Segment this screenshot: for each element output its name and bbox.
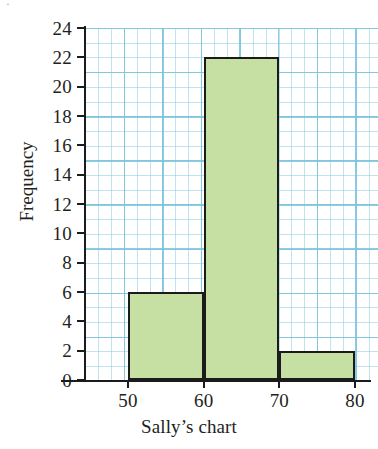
y-axis-tick xyxy=(77,350,85,352)
bar xyxy=(204,57,280,380)
y-axis-tick xyxy=(77,262,85,264)
y-axis-tick xyxy=(77,203,85,205)
y-axis-tick-label: 6 xyxy=(32,283,72,302)
y-axis-tick-label: 22 xyxy=(32,48,72,67)
y-axis-tick-label: 4 xyxy=(32,312,72,331)
x-axis-tick xyxy=(354,380,356,388)
y-axis-tick xyxy=(77,144,85,146)
y-axis-tick xyxy=(77,27,85,29)
y-axis-tick xyxy=(77,56,85,58)
x-axis-tick-label: 60 xyxy=(174,391,234,410)
y-axis-tick-label: 0 xyxy=(32,371,72,390)
y-axis-tick-label: 18 xyxy=(32,107,72,126)
x-axis-tick xyxy=(278,380,280,388)
y-axis-tick xyxy=(77,174,85,176)
y-axis-tick-label: 24 xyxy=(32,19,72,38)
y-axis-tick xyxy=(77,291,85,293)
x-axis-title: Sally’s chart xyxy=(0,417,378,437)
x-axis-line xyxy=(61,380,371,382)
histogram-figure: ᐧ 024681012141618202224 50607080 Frequen… xyxy=(0,0,378,449)
page-scan-artifact: ᐧ xyxy=(6,0,16,9)
y-axis-tick-label: 20 xyxy=(32,77,72,96)
x-axis-tick-label: 50 xyxy=(98,391,158,410)
y-axis-tick-label: 2 xyxy=(32,341,72,360)
x-axis-tick xyxy=(127,380,129,388)
x-axis-tick xyxy=(203,380,205,388)
x-axis-tick-label: 70 xyxy=(249,391,309,410)
y-axis-tick xyxy=(77,86,85,88)
y-axis-tick xyxy=(77,232,85,234)
y-axis-tick-label: 12 xyxy=(32,195,72,214)
bar xyxy=(279,351,355,380)
y-axis-tick-label: 14 xyxy=(32,165,72,184)
y-axis-title: Frequency xyxy=(17,97,36,267)
y-axis-tick xyxy=(77,115,85,117)
y-axis-tick-label: 16 xyxy=(32,136,72,155)
y-axis-tick-label: 10 xyxy=(32,224,72,243)
plot-area xyxy=(85,28,378,380)
y-axis-tick-label: 8 xyxy=(32,253,72,272)
x-axis-tick-label: 80 xyxy=(325,391,378,410)
y-axis-tick xyxy=(77,320,85,322)
bar xyxy=(128,292,204,380)
y-axis-tick xyxy=(77,379,85,381)
bar-series xyxy=(85,28,378,380)
